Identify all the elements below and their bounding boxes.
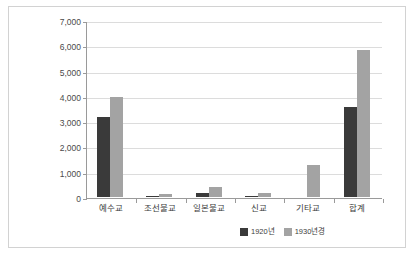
y-axis-tick-label: 3,000 [60, 119, 81, 128]
bar-group [285, 22, 334, 197]
bar [209, 187, 222, 197]
legend-swatch-icon [240, 228, 248, 236]
y-axis-tick [83, 199, 87, 200]
y-axis-tick-label: 6,000 [60, 43, 81, 52]
y-axis-tick-label: 5,000 [60, 69, 81, 78]
x-axis-category-label: 신교 [234, 201, 283, 215]
bar-group [137, 22, 186, 197]
bar [146, 196, 159, 197]
chart-legend: 1920년1930년경 [240, 226, 325, 238]
bar [357, 50, 370, 197]
y-axis-tick-label: 1,000 [60, 170, 81, 179]
bar-group [187, 22, 236, 197]
bars-layer [88, 22, 382, 197]
bar [258, 193, 271, 197]
x-axis-category-label: 일본불교 [185, 201, 234, 215]
legend-item[interactable]: 1920년 [240, 228, 275, 236]
bar [245, 196, 258, 197]
y-axis-tick [83, 22, 87, 23]
x-axis-category-label: 합계 [333, 201, 382, 215]
y-axis-tick [83, 98, 87, 99]
bar [159, 194, 172, 197]
plot-area [86, 22, 382, 199]
bar [307, 165, 320, 197]
y-axis-tick [83, 148, 87, 149]
x-axis-category-label: 조선불교 [135, 201, 184, 215]
legend-label: 1930년경 [295, 228, 326, 236]
x-axis-labels: 예수교조선불교일본불교신교기타교합계 [86, 201, 382, 217]
x-axis-tick [383, 199, 384, 203]
bar-group [88, 22, 137, 197]
y-axis-labels: 01,0002,0003,0004,0005,0006,0007,000 [30, 22, 81, 199]
y-axis-tick [83, 73, 87, 74]
bar [97, 117, 110, 197]
y-axis-tick [83, 174, 87, 175]
chart-screenshot: 01,0002,0003,0004,0005,0006,0007,000 예수교… [0, 0, 416, 256]
bar [196, 193, 209, 197]
bar-group [236, 22, 285, 197]
plot-frame [86, 22, 382, 199]
legend-label: 1920년 [251, 228, 275, 236]
x-axis-category-label: 기타교 [283, 201, 332, 215]
y-axis-tick [83, 47, 87, 48]
x-axis-category-label: 예수교 [86, 201, 135, 215]
y-axis-tick-label: 2,000 [60, 144, 81, 153]
y-axis-tick-label: 0 [76, 195, 81, 204]
legend-swatch-icon [284, 228, 292, 236]
bar [344, 107, 357, 197]
legend-item[interactable]: 1930년경 [284, 228, 326, 236]
y-axis-tick-label: 7,000 [60, 18, 81, 27]
y-axis-tick-label: 4,000 [60, 94, 81, 103]
bar [110, 97, 123, 197]
y-axis-tick [83, 123, 87, 124]
bar-group [335, 22, 384, 197]
